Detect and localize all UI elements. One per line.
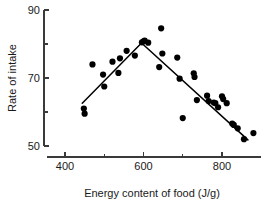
data-point — [101, 83, 107, 89]
x-tick-label: 600 — [134, 160, 152, 172]
rising-segment — [82, 43, 141, 103]
x-tick-label: 800 — [213, 160, 231, 172]
data-point — [174, 55, 180, 61]
data-point — [82, 111, 88, 117]
chart-figure: 507090 400600800 Energy content of food … — [0, 0, 277, 211]
data-point — [241, 136, 247, 142]
data-point — [117, 55, 123, 61]
data-point — [115, 70, 121, 76]
x-axis-tick-labels: 400600800 — [56, 160, 231, 172]
scatter-plot: 507090 400600800 Energy content of food … — [0, 0, 277, 211]
data-point — [89, 61, 95, 67]
data-point — [156, 64, 162, 70]
x-axis-title: Energy content of food (J/g) — [84, 187, 220, 199]
y-axis-ticks — [44, 10, 49, 146]
data-point — [180, 115, 186, 121]
x-tick-label: 400 — [56, 160, 74, 172]
fitted-line — [82, 43, 248, 140]
y-axis-tick-labels: 507090 — [28, 4, 40, 152]
axes — [44, 10, 261, 157]
data-point — [250, 130, 256, 136]
data-point — [145, 40, 151, 46]
data-point — [159, 50, 165, 56]
data-point — [158, 25, 164, 31]
y-tick-label: 50 — [28, 140, 40, 152]
data-point — [100, 72, 106, 78]
data-point — [194, 97, 200, 103]
data-point — [215, 104, 221, 110]
y-axis-title: Rate of intake — [6, 44, 18, 112]
data-point — [224, 100, 230, 106]
data-point — [235, 125, 241, 131]
data-point — [191, 74, 197, 80]
y-tick-label: 70 — [28, 72, 40, 84]
data-point — [124, 48, 130, 54]
data-point — [109, 59, 115, 65]
data-point — [132, 52, 138, 58]
data-point — [204, 93, 210, 99]
y-tick-label: 90 — [28, 4, 40, 16]
x-axis-ticks — [65, 152, 222, 157]
data-points — [81, 25, 257, 142]
data-point — [177, 76, 183, 82]
